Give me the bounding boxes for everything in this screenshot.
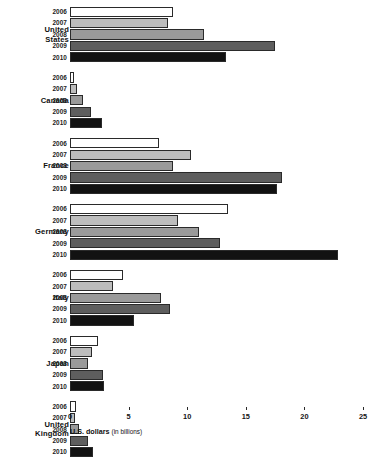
year-label: 2010 [41,117,67,128]
bar-2009 [70,107,91,117]
year-label: 2009 [41,238,67,249]
x-axis: U.S. dollars (in billions) 0510152025 [0,410,371,453]
bar-row: 2009 [0,238,371,249]
bar-row: 2007 [0,281,371,292]
year-label: 2007 [41,149,67,160]
bar-2010 [70,118,102,128]
bar-row: 2007 [0,346,371,357]
bar-row: 2006 [0,138,371,149]
bar-row: 2007 [0,83,371,94]
x-tick-label: 10 [172,412,202,421]
x-tick-label: 5 [114,412,144,421]
bar-row: 2006 [0,6,371,17]
year-label: 2008 [41,358,67,369]
x-tick-label: 20 [289,412,319,421]
bar-2009 [70,304,170,314]
x-tick-mark [129,407,130,410]
year-label: 2006 [41,203,67,214]
bar-row: 2006 [0,269,371,280]
bar-2008 [70,161,173,171]
bar-row: 2008 [0,292,371,303]
bar-group: Germany20062007200820092010 [0,203,371,260]
x-axis-title-main: U.S. dollars [70,427,110,436]
bar-row: 2008 [0,95,371,106]
bar-2008 [70,95,83,105]
year-label: 2007 [41,281,67,292]
x-axis-title: U.S. dollars (in billions) [70,427,142,436]
bar-2006 [70,336,98,346]
bar-2006 [70,270,123,280]
year-label: 2006 [41,335,67,346]
bar-group: Japan20062007200820092010 [0,335,371,392]
bar-row: 2007 [0,17,371,28]
bar-2009 [70,370,103,380]
year-label: 2010 [41,249,67,260]
x-tick-mark [304,407,305,410]
bar-row: 2008 [0,226,371,237]
year-label: 2009 [41,172,67,183]
x-tick-mark [246,407,247,410]
year-label: 2007 [41,83,67,94]
bar-group: Canada20062007200820092010 [0,72,371,129]
bar-row: 2010 [0,249,371,260]
year-label: 2009 [41,303,67,314]
bar-2007 [70,84,77,94]
x-tick-label: 25 [348,412,371,421]
bar-2006 [70,72,74,82]
bar-2006 [70,138,159,148]
bar-group: France20062007200820092010 [0,138,371,195]
x-tick-label: 15 [231,412,261,421]
year-label: 2009 [41,106,67,117]
bar-2008 [70,29,204,39]
bar-2008 [70,227,199,237]
bar-2010 [70,52,226,62]
year-label: 2009 [41,40,67,51]
bar-row: 2009 [0,172,371,183]
bar-group: UnitedStates20062007200820092010 [0,6,371,63]
bar-row: 2010 [0,183,371,194]
x-tick-label: 0 [55,412,85,421]
year-label: 2006 [41,138,67,149]
x-tick-mark [187,407,188,410]
bar-row: 2006 [0,335,371,346]
bar-row: 2010 [0,52,371,63]
bar-row: 2008 [0,160,371,171]
year-label: 2008 [41,29,67,40]
year-label: 2010 [41,381,67,392]
bar-2010 [70,381,104,391]
bar-group: Italy20062007200820092010 [0,269,371,326]
bar-2010 [70,315,134,325]
year-label: 2006 [41,269,67,280]
year-label: 2010 [41,315,67,326]
bar-row: 2010 [0,381,371,392]
bar-row: 2008 [0,29,371,40]
year-label: 2009 [41,369,67,380]
year-label: 2008 [41,95,67,106]
bar-2006 [70,7,173,17]
x-axis-title-unit: (in billions) [112,428,143,435]
bar-row: 2009 [0,106,371,117]
year-label: 2006 [41,6,67,17]
bar-2008 [70,293,161,303]
bar-row: 2006 [0,203,371,214]
year-label: 2007 [41,215,67,226]
x-tick-mark [70,407,71,410]
bar-2006 [70,204,228,214]
year-label: 2008 [41,160,67,171]
bar-row: 2009 [0,303,371,314]
bar-2009 [70,41,275,51]
bar-2007 [70,281,113,291]
bar-2009 [70,238,220,248]
bar-2009 [70,172,282,182]
year-label: 2010 [41,52,67,63]
year-label: 2007 [41,346,67,357]
bar-row: 2010 [0,117,371,128]
bar-2007 [70,347,92,357]
bar-2007 [70,18,168,28]
bar-row: 2010 [0,315,371,326]
year-label: 2008 [41,292,67,303]
bar-row: 2007 [0,149,371,160]
plot-area: UnitedStates20062007200820092010Canada20… [0,0,371,410]
year-label: 2010 [41,183,67,194]
